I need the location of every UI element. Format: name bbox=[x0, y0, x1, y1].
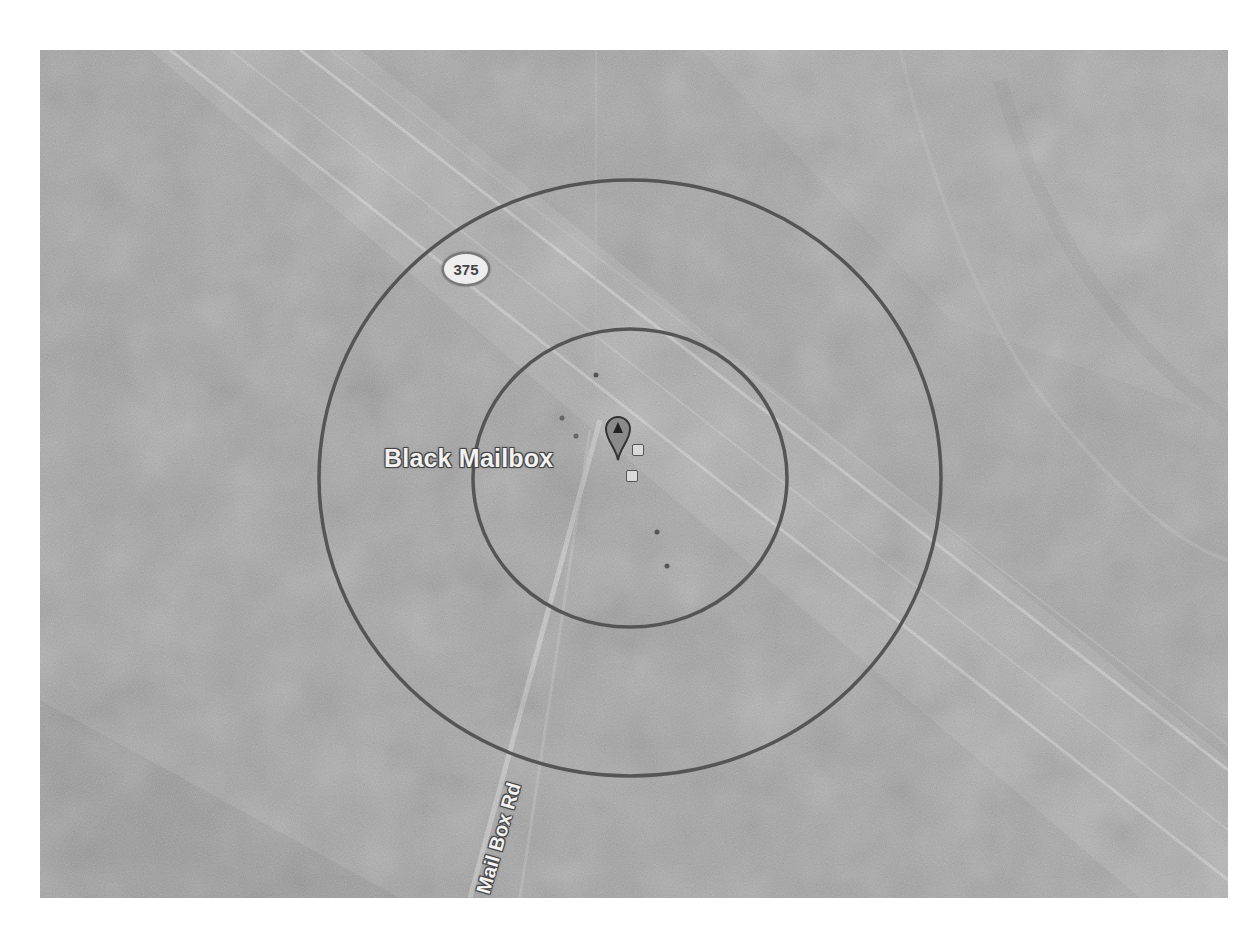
map-pin-icon bbox=[604, 414, 632, 462]
highway-375-shield[interactable]: 375 bbox=[442, 252, 490, 286]
poi-icon[interactable] bbox=[632, 444, 644, 456]
location-marker-a[interactable] bbox=[604, 414, 632, 466]
poi-icon[interactable] bbox=[626, 470, 638, 482]
place-label-black-mailbox[interactable]: Black Mailbox bbox=[384, 444, 553, 473]
